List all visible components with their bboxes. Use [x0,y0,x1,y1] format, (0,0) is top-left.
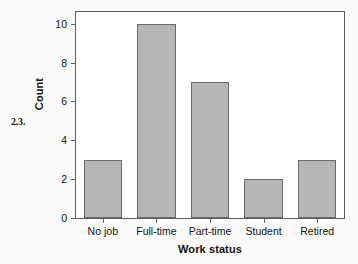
bar-chart-figure: 2.3. Count 0246810No jobFull-timePart-ti… [0,0,358,264]
x-axis-tick-label: Student [245,225,281,237]
y-axis-title: Count [33,44,45,144]
x-axis-tick [317,218,318,223]
bar [244,179,283,218]
x-axis-tick [156,218,157,223]
x-axis-tick-label: No job [88,225,118,237]
y-axis-tick: 8 [71,63,76,64]
x-axis-tick [264,218,265,223]
x-axis-tick-label: Retired [300,225,334,237]
x-axis-tick-label: Full-time [136,225,176,237]
y-axis-tick-label: 4 [61,134,67,146]
y-axis-tick: 10 [71,24,76,25]
y-axis-tick: 0 [71,218,76,219]
y-axis-tick-label: 0 [61,212,67,224]
bar [191,82,230,218]
bar [298,160,337,218]
y-axis-tick-label: 2 [61,173,67,185]
y-axis-tick-label: 6 [61,95,67,107]
bar [137,24,176,218]
y-axis-tick-label: 8 [61,57,67,69]
x-axis-title: Work status [75,243,345,255]
bar [84,160,123,218]
plot-frame: 0246810No jobFull-timePart-timeStudentRe… [75,11,345,219]
y-axis-tick: 6 [71,101,76,102]
x-axis-tick [210,218,211,223]
y-axis-tick-label: 10 [55,18,67,30]
x-axis-tick-label: Part-time [189,225,232,237]
y-axis-tick: 2 [71,179,76,180]
y-axis-tick: 4 [71,140,76,141]
x-axis-tick [103,218,104,223]
plot-area: 0246810No jobFull-timePart-timeStudentRe… [76,12,344,218]
exercise-number-label: 2.3. [11,117,25,127]
